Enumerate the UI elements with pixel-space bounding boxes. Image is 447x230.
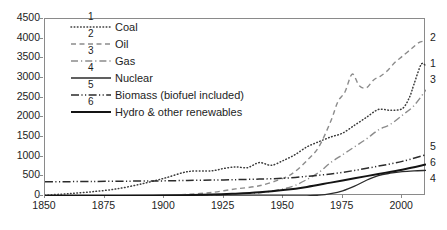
y-axis-tick-label: 4000 (0, 31, 40, 43)
chart-figure: 450040003500300025002000150010005000 185… (0, 0, 447, 230)
x-axis-tick-label: 1875 (84, 199, 124, 211)
series-end-label: 5 (430, 140, 436, 152)
y-axis-tick-label: 2500 (0, 90, 40, 102)
legend-item-label: Biomass (biofuel included) (115, 89, 244, 101)
x-axis-tick-label: 1950 (262, 199, 302, 211)
y-axis-tick-label: 500 (0, 168, 40, 180)
y-axis-tick-label: 1000 (0, 149, 40, 161)
series-end-label: 2 (430, 31, 436, 43)
legend-item: 3Gas (70, 52, 310, 69)
y-axis-tick-label: 2000 (0, 109, 40, 121)
legend-item-label: Gas (115, 55, 135, 67)
series-line-biomass (45, 155, 426, 182)
y-axis-tick (38, 195, 43, 196)
y-axis-tick (38, 38, 43, 39)
series-end-label: 3 (430, 73, 436, 85)
y-axis-tick (38, 175, 43, 176)
y-axis-tick (38, 18, 43, 19)
y-axis-tick (38, 156, 43, 157)
x-axis-tick-label: 1850 (24, 199, 64, 211)
legend-item: 5Biomass (biofuel included) (70, 86, 310, 103)
legend-line-swatch (70, 106, 112, 118)
series-end-label: 1 (430, 57, 436, 69)
legend-item: 4Nuclear (70, 69, 310, 86)
x-axis-tick-label: 2000 (381, 199, 421, 211)
series-line-nuclear (45, 170, 426, 196)
y-axis-tick (38, 77, 43, 78)
series-end-label: 4 (430, 172, 436, 184)
y-axis-tick-label: 1500 (0, 129, 40, 141)
legend-item: 1Coal (70, 18, 310, 35)
x-axis-tick-label: 1900 (143, 199, 183, 211)
x-axis-tick-label: 1925 (203, 199, 243, 211)
legend-item-label: Nuclear (115, 72, 153, 84)
y-axis-tick-label: 3500 (0, 50, 40, 62)
y-axis-tick (38, 97, 43, 98)
legend-item: 6Hydro & other renewables (70, 103, 310, 120)
x-axis-tick-label: 1975 (322, 199, 362, 211)
legend-item-label: Hydro & other renewables (115, 106, 242, 118)
y-axis-tick (38, 136, 43, 137)
legend-item-label: Coal (115, 21, 138, 33)
y-axis-tick (38, 57, 43, 58)
legend-item-label: Oil (115, 38, 128, 50)
legend-item: 2Oil (70, 35, 310, 52)
chart-legend: 1Coal2Oil3Gas4Nuclear5Biomass (biofuel i… (70, 18, 310, 120)
series-end-label: 6 (430, 156, 436, 168)
y-axis-tick-label: 3000 (0, 70, 40, 82)
y-axis-tick (38, 116, 43, 117)
y-axis-tick-label: 4500 (0, 11, 40, 23)
